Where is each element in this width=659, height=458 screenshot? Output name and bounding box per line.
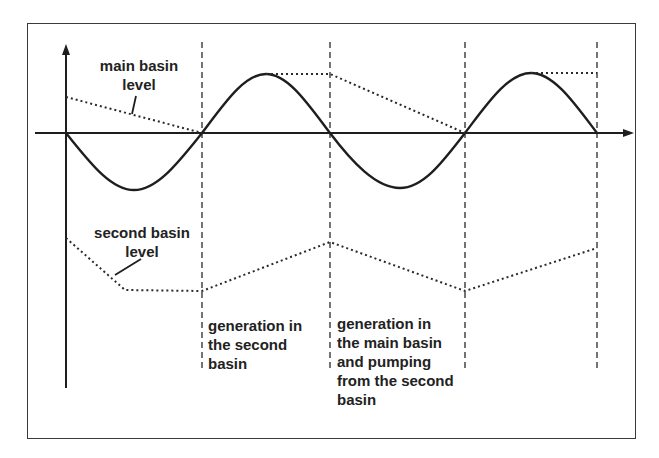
second-basin-level-label: second basin level (84, 223, 200, 261)
axes (35, 44, 634, 388)
phase-label-generation-main-pumping: generation in the main basin and pumping… (337, 314, 454, 409)
main-basin-leader-line (132, 96, 136, 114)
x-axis-arrow-icon (623, 129, 634, 137)
second-basin-leader-line (115, 259, 141, 275)
main-basin-level-label: main basin level (84, 56, 194, 94)
phase-label-generation-second-basin: generation in the second basin (208, 316, 302, 373)
y-axis-arrow-icon (62, 44, 70, 55)
